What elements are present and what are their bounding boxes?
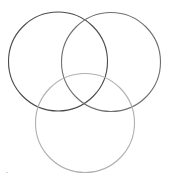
venn-diagram-svg — [0, 0, 169, 178]
corner-artifact — [6, 172, 8, 173]
circle-bottom — [36, 74, 135, 173]
venn-diagram — [0, 0, 169, 178]
circle-right — [62, 13, 161, 112]
circle-left — [9, 12, 108, 111]
